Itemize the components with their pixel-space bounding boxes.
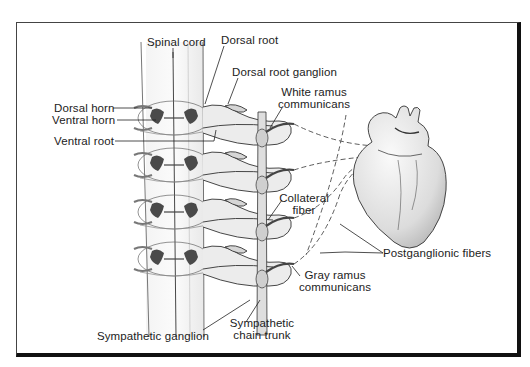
label-dorsal-root-ganglion: Dorsal root ganglion	[232, 66, 337, 78]
label-gray-ramus-line2: communicans	[296, 281, 374, 293]
label-gray-ramus: Gray ramus communicans	[296, 269, 374, 293]
anatomy-illustration	[0, 0, 530, 367]
label-postganglionic-fibers: Postganglionic fibers	[383, 247, 491, 259]
label-sympathetic-chain-trunk: Sympathetic chain trunk	[226, 317, 298, 341]
label-gray-ramus-line1: Gray ramus	[296, 269, 374, 281]
label-chain-trunk-line1: Sympathetic	[226, 317, 298, 329]
label-dorsal-root: Dorsal root	[221, 34, 278, 46]
label-dorsal-horn: Dorsal horn	[54, 102, 115, 114]
label-collateral-fiber: Collateral fiber	[278, 192, 330, 216]
label-collateral-line1: Collateral	[278, 192, 330, 204]
spinal-cord	[141, 42, 204, 337]
label-chain-trunk-line2: chain trunk	[226, 329, 298, 341]
heart-illustration	[353, 106, 446, 248]
label-collateral-line2: fiber	[278, 204, 330, 216]
label-spinal-cord: Spinal cord	[147, 36, 206, 48]
label-white-ramus: White ramus communicans	[272, 86, 356, 110]
label-white-ramus-line1: White ramus	[272, 86, 356, 98]
label-sympathetic-ganglion: Sympathetic ganglion	[97, 330, 209, 342]
label-ventral-root: Ventral root	[54, 135, 114, 147]
label-white-ramus-line2: communicans	[272, 98, 356, 110]
label-ventral-horn: Ventral horn	[52, 114, 115, 126]
